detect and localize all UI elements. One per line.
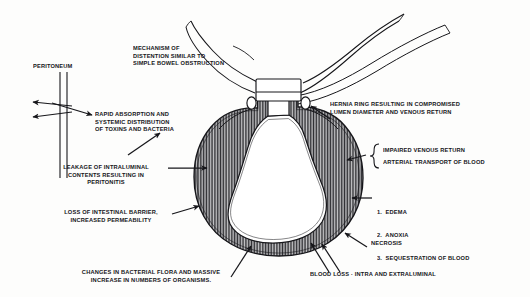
arrow-necrosis xyxy=(345,233,367,247)
label-sequelae-list: 1. EDEMA 2. ANOXIA 3. SEQUESTRATION OF B… xyxy=(377,193,469,277)
label-impaired-venous-return: IMPAIRED VENOUS RETURN xyxy=(383,146,465,154)
arrow-loss-barrier xyxy=(172,206,199,214)
venous-arterial-bracket xyxy=(370,144,379,168)
label-arterial-transport: ARTERIAL TRANSPORT OF BLOOD xyxy=(383,158,485,166)
arrow-blood-loss-b xyxy=(322,244,340,272)
arrow-leakage-to-peritoneum xyxy=(128,133,160,155)
label-mechanism-of-distention: MECHANISM OF DISTENTION SIMILAR TO SIMPL… xyxy=(133,44,224,67)
label-rapid-absorption: RAPID ABSORPTION AND SYSTEMIC DISTRIBUTI… xyxy=(95,110,174,133)
label-necrosis: NECROSIS xyxy=(371,239,402,247)
sequelae-item-2: 2. ANOXIA xyxy=(377,231,469,239)
label-leakage-peritonitis: LEAKAGE OF INTRALUMINAL CONTENTS RESULTI… xyxy=(46,163,166,186)
diagram-canvas: PERITONEUM MECHANISM OF DISTENTION SIMIL… xyxy=(0,0,530,297)
label-loss-intestinal-barrier: LOSS OF INTESTINAL BARRIER, INCREASED PE… xyxy=(52,208,170,223)
arrow-toxin-out-lower xyxy=(33,112,72,117)
mechanism-leader xyxy=(233,46,254,60)
label-peritoneum: PERITONEUM xyxy=(33,62,73,70)
bowel-limb-overlap xyxy=(296,25,450,104)
label-blood-loss: BLOOD LOSS · INTRA AND EXTRALUMINAL xyxy=(310,270,436,278)
sequelae-item-1: 1. EDEMA xyxy=(377,208,469,216)
sequelae-item-3: 3. SEQUESTRATION OF BLOOD xyxy=(377,254,469,262)
label-hernia-ring: HERNIA RING RESULTING IN COMPROMISED LUM… xyxy=(330,100,460,115)
arrow-bacterial-flora xyxy=(231,246,251,277)
label-bacterial-flora: CHANGES IN BACTERIAL FLORA AND MASSIVE I… xyxy=(72,268,230,283)
